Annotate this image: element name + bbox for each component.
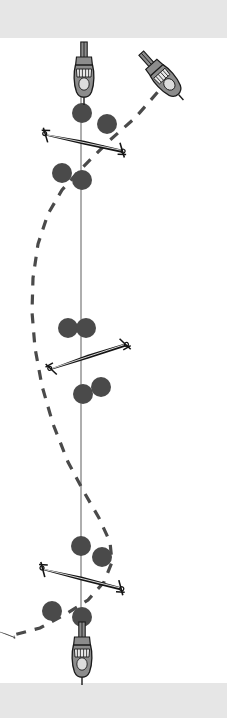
craft-top-right-diagonal[interactable] bbox=[134, 47, 191, 107]
glider-edge-left[interactable] bbox=[0, 629, 16, 640]
glider-bar-lower[interactable] bbox=[36, 558, 127, 600]
node-mid-axis-upper[interactable] bbox=[76, 318, 96, 338]
node-mid-axis-lower[interactable] bbox=[73, 384, 93, 404]
simulation-viewport bbox=[0, 0, 227, 718]
node-mid-left[interactable] bbox=[58, 318, 78, 338]
craft-layer bbox=[72, 42, 191, 685]
node-upper-axis-lower[interactable] bbox=[72, 170, 92, 190]
node-upper-offaxis[interactable] bbox=[97, 114, 117, 134]
node-lower-right[interactable] bbox=[92, 547, 112, 567]
scene-canvas bbox=[0, 0, 227, 718]
node-upper-left[interactable] bbox=[52, 163, 72, 183]
glider-layer bbox=[0, 124, 133, 640]
craft-bottom-vertical[interactable] bbox=[72, 622, 92, 685]
node-mid-right[interactable] bbox=[91, 377, 111, 397]
node-upper-axis[interactable] bbox=[72, 103, 92, 123]
craft-top-vertical[interactable] bbox=[74, 42, 94, 105]
node-lower-left[interactable] bbox=[42, 601, 62, 621]
node-lower-axis[interactable] bbox=[71, 536, 91, 556]
glider-bar-middle[interactable] bbox=[44, 336, 133, 377]
node-layer bbox=[42, 103, 117, 627]
